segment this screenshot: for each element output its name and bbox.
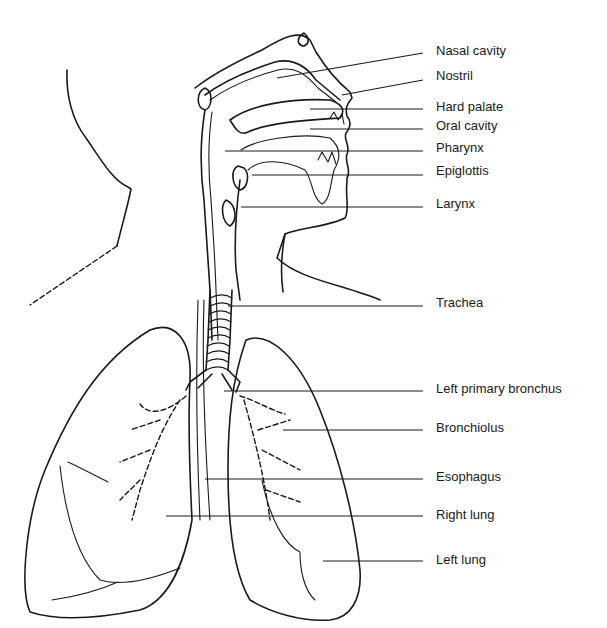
- label-hard-palate: Hard palate: [436, 100, 503, 113]
- nasal-roof: [205, 61, 340, 100]
- lower-teeth: [318, 152, 336, 164]
- right-lung-fissure-oblique: [60, 466, 180, 582]
- label-epiglottis: Epiglottis: [436, 164, 489, 177]
- label-left-primary-bronchus: Left primary bronchus: [436, 382, 562, 395]
- label-larynx: Larynx: [436, 197, 475, 210]
- sinus-sphenoid: [198, 88, 211, 110]
- shoulder-left-outline: [30, 246, 117, 305]
- larynx-front: [235, 180, 240, 300]
- anatomy-illustration: [0, 0, 607, 628]
- leader-nostril: [342, 80, 423, 95]
- leader-nasal-cavity: [277, 53, 423, 78]
- larynx-cartilage: [223, 200, 235, 226]
- face-profile: [195, 35, 380, 300]
- right-lung-fissure-horizontal: [68, 462, 108, 482]
- label-nasal-cavity: Nasal cavity: [436, 44, 506, 57]
- tongue-outline: [241, 136, 339, 204]
- head-back-outline: [67, 70, 131, 246]
- label-bronchiolus: Bronchiolus: [436, 421, 504, 434]
- epiglottis-shape: [233, 166, 248, 190]
- label-nostril: Nostril: [436, 69, 473, 82]
- right-bronchial-tree: [120, 396, 186, 520]
- label-esophagus: Esophagus: [436, 470, 501, 483]
- left-bronchial-tree: [240, 396, 300, 520]
- right-lung-lower-lobe: [52, 582, 118, 600]
- label-right-lung: Right lung: [436, 508, 495, 521]
- label-trachea: Trachea: [436, 296, 483, 309]
- label-pharynx: Pharynx: [436, 141, 484, 154]
- nasal-roof-inner: [210, 69, 336, 102]
- label-oral-cavity: Oral cavity: [436, 119, 497, 132]
- hard-palate-shape: [230, 100, 343, 134]
- respiratory-system-diagram: Nasal cavity Nostril Hard palate Oral ca…: [0, 0, 607, 628]
- label-left-lung: Left lung: [436, 553, 486, 566]
- right-lung-outline: [25, 327, 192, 617]
- leader-lines: [166, 53, 423, 561]
